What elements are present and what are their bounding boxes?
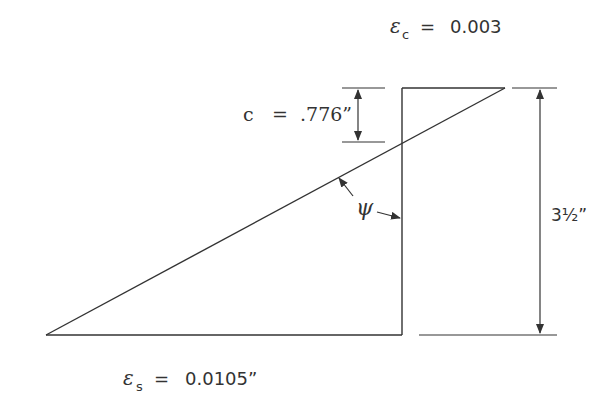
label-epsilon-s: ε s = 0.0105” <box>123 366 257 394</box>
epsilon-s-value: 0.0105” <box>185 368 257 389</box>
strain-profile <box>46 88 505 335</box>
epsilon-c-symbol: ε <box>390 14 401 38</box>
strain-diagonal-line <box>46 88 505 335</box>
c-value: .776” <box>300 103 352 125</box>
epsilon-s-subscript: s <box>136 379 143 394</box>
epsilon-c-equals: = <box>420 16 435 37</box>
epsilon-s-symbol: ε <box>123 366 134 390</box>
label-c-depth: c = .776” <box>243 103 352 125</box>
psi-arrow-to-diagonal <box>339 178 353 196</box>
psi-symbol: ψ <box>356 195 374 220</box>
epsilon-s-equals: = <box>154 368 169 389</box>
height-value: 3½” <box>551 205 587 225</box>
epsilon-c-value: 0.003 <box>450 16 502 37</box>
height-dimension <box>419 88 557 335</box>
c-equals: = <box>272 103 288 125</box>
epsilon-c-subscript: c <box>402 27 409 42</box>
c-symbol: c <box>243 103 254 125</box>
label-epsilon-c: ε c = 0.003 <box>390 14 502 42</box>
psi-arrow-to-vertical <box>377 212 400 218</box>
strain-diagram: ε c = 0.003 c = .776” ψ 3½” ε s = 0.0105… <box>0 0 613 411</box>
